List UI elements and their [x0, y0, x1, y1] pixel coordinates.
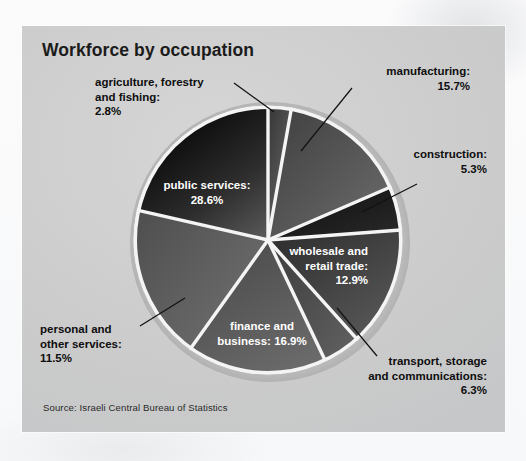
callout-construction: construction: 5.3%	[312, 147, 487, 176]
callout-personal-value: 11.5%	[40, 351, 122, 366]
callout-personal-line1: personal and	[40, 322, 122, 337]
callout-agriculture-line2: and fishing:	[95, 90, 204, 105]
slice-label-public-services: public services: 28.6%	[132, 178, 282, 207]
callout-agriculture-line1: agriculture, forestry	[95, 75, 204, 90]
slice-label-public-line1: public services:	[132, 178, 282, 193]
callout-construction-value: 5.3%	[312, 162, 487, 177]
callout-transport-line2: and communications:	[297, 369, 487, 384]
callout-transport-value: 6.3%	[297, 383, 487, 398]
slice-label-wholesale-value: 12.9%	[208, 273, 368, 288]
pie-chart: agriculture, forestry and fishing: 2.8% …	[22, 26, 505, 432]
callout-transport-line1: transport, storage	[297, 354, 487, 369]
callout-manufacturing-line1: manufacturing:	[290, 64, 470, 79]
callout-construction-line1: construction:	[312, 147, 487, 162]
callout-agriculture-value: 2.8%	[95, 104, 204, 119]
chart-card: Workforce by occupation	[22, 26, 505, 432]
slice-label-wholesale-retail: wholesale and retail trade: 12.9%	[208, 244, 368, 288]
slice-label-public-value: 28.6%	[132, 193, 282, 208]
callout-transport: transport, storage and communications: 6…	[297, 354, 487, 398]
callout-agriculture: agriculture, forestry and fishing: 2.8%	[95, 75, 204, 119]
slice-label-wholesale-line2: retail trade:	[208, 259, 368, 274]
source-note: Source: Israeli Central Bureau of Statis…	[43, 402, 228, 413]
slice-label-finance-business: finance and business: 16.9%	[182, 319, 342, 348]
slice-label-finance-line2: business: 16.9%	[182, 334, 342, 349]
callout-personal-line2: other services:	[40, 337, 122, 352]
slice-label-wholesale-line1: wholesale and	[208, 244, 368, 259]
slice-label-finance-line1: finance and	[182, 319, 342, 334]
callout-manufacturing-value: 15.7%	[290, 79, 470, 94]
callout-personal-services: personal and other services: 11.5%	[40, 322, 122, 366]
callout-manufacturing: manufacturing: 15.7%	[290, 64, 470, 93]
